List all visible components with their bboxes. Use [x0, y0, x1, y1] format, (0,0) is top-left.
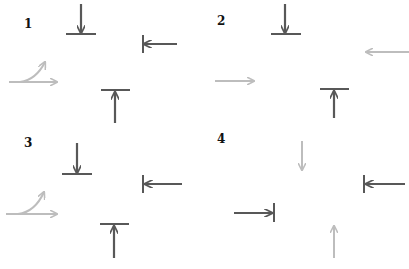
southbound-stop-arrow-icon	[62, 143, 92, 174]
panel-2	[215, 4, 409, 118]
southbound-stop-arrow-icon	[66, 4, 96, 34]
panel-4	[234, 141, 405, 258]
westbound-stop-arrow-icon	[143, 35, 177, 53]
eastbound-through-left-arrow-icon	[9, 62, 57, 82]
southbound-stop-arrow-icon	[271, 4, 301, 34]
westbound-stop-arrow-icon	[364, 175, 405, 193]
eastbound-stop-arrow-icon	[234, 203, 274, 222]
northbound-stop-arrow-icon	[320, 89, 349, 118]
westbound-stop-arrow-icon	[143, 175, 182, 193]
eastbound-through-left-arrow-icon	[6, 192, 57, 214]
panel-1	[9, 4, 177, 123]
northbound-stop-arrow-icon	[100, 224, 129, 258]
traffic-phase-diagram	[0, 0, 409, 269]
northbound-stop-arrow-icon	[101, 90, 130, 123]
panel-3	[6, 143, 182, 258]
